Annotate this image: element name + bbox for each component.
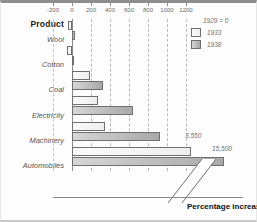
bar-wool-1933 [68, 21, 72, 30]
category-label-machinery: Machinery [29, 136, 64, 145]
callout-3550: 3,550 [185, 132, 201, 139]
tick-400 [110, 3, 111, 6]
bar-row-coal [72, 70, 243, 95]
legend: 1929 = 0 1933 1938 [191, 17, 253, 52]
legend-label-1938: 1938 [207, 41, 221, 48]
x-axis-title: Percentage increase [187, 202, 257, 211]
tick-200 [91, 3, 92, 6]
legend-swatch-icon-1938 [191, 40, 201, 49]
category-label-wool: Wool [47, 35, 64, 44]
bar-cotton-1938 [72, 56, 74, 65]
bar-machinery-1938 [72, 132, 160, 141]
tick-600 [129, 3, 130, 6]
tick-label-600: 600 [124, 7, 134, 13]
tick-1200 [186, 3, 187, 6]
tick-label-400: 400 [105, 7, 115, 13]
x-axis-line [53, 197, 243, 198]
bar-coal-1933 [72, 71, 90, 80]
legend-item-1938: 1938 [191, 40, 253, 49]
chart-container: Product Wool Cotton Coal Electricity Mac… [0, 0, 257, 222]
tick-label-1200: 1200 [179, 7, 192, 13]
tick-label-800: 800 [143, 7, 153, 13]
bar-row-electricity [72, 95, 243, 120]
bar-cotton-1933 [67, 46, 72, 55]
category-label-automobiles: Automobiles [23, 161, 64, 170]
legend-label-1933: 1933 [207, 29, 221, 36]
tick-0 [72, 3, 73, 6]
bar-row-machinery [72, 120, 243, 145]
tick-label-0: 0 [70, 7, 73, 13]
callout-15500: 15,500 [212, 145, 232, 152]
gridline--200 [53, 19, 54, 171]
bar-automobiles-1933 [72, 147, 191, 156]
bar-wool-1938 [72, 31, 75, 40]
tick-800 [148, 3, 149, 6]
legend-baseline-note: 1929 = 0 [191, 17, 253, 24]
y-axis-category-labels: Wool Cotton Coal Electricity Machinery A… [1, 19, 69, 171]
bar-coal-1938 [72, 81, 103, 90]
category-label-electricity: Electricity [32, 111, 64, 120]
legend-swatch-icon-1933 [191, 28, 201, 37]
legend-item-1933: 1933 [191, 28, 253, 37]
tick-label--200: -200 [47, 7, 59, 13]
bar-machinery-1933 [72, 122, 105, 131]
tick-1000 [167, 3, 168, 6]
bar-automobiles-1938 [72, 157, 224, 166]
tick--200 [53, 3, 54, 6]
tick-label-200: 200 [86, 7, 96, 13]
bar-electricity-1938 [72, 106, 133, 115]
bar-electricity-1933 [72, 96, 98, 105]
tick-label-1000: 1000 [160, 7, 173, 13]
category-label-coal: Coal [49, 85, 64, 94]
